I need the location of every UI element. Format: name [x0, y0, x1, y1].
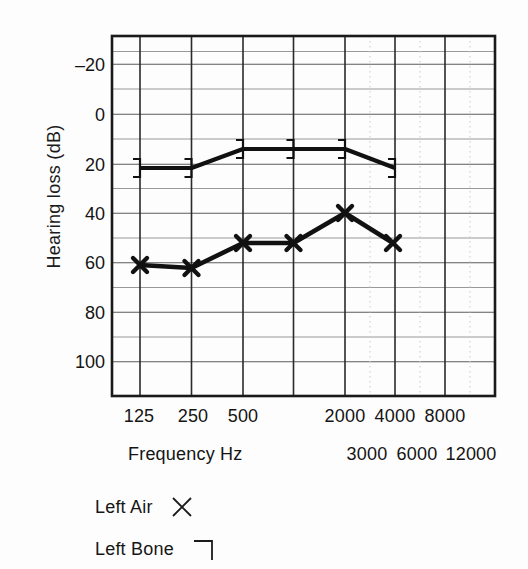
y-tick-label: 20 [85, 155, 105, 175]
audiogram-figure: Hearing loss (dB) [0, 0, 528, 569]
audiogram-plot: –20 0 20 40 60 80 100 [0, 0, 528, 420]
legend-item-left-air: Left Air [95, 492, 195, 522]
plot-frame [112, 36, 495, 396]
x-tick-label-8000: 8000 [425, 406, 466, 427]
x-tick-label-6000: 6000 [397, 444, 438, 465]
x-tick-row-secondary: 3000 6000 12000 [0, 444, 528, 470]
y-tick-label: 100 [75, 352, 105, 372]
x-tick-label-12000: 12000 [445, 444, 496, 465]
x-axis-title: Frequency Hz [128, 444, 242, 465]
left-bone-markers [133, 140, 395, 177]
cross-x-symbol-icon [169, 494, 195, 520]
y-tick-label: 0 [95, 105, 105, 125]
y-tick-label: –20 [75, 55, 105, 75]
y-tick-labels: –20 0 20 40 60 80 100 [75, 55, 105, 373]
x-tick-label-250: 250 [178, 406, 209, 427]
legend-label-left-air: Left Air [95, 497, 153, 518]
series-left-air [133, 206, 400, 275]
series-left-bone [133, 140, 395, 177]
horizontal-major-gridlines [112, 64, 495, 361]
x-tick-label-500: 500 [228, 406, 259, 427]
grid-layer [112, 36, 495, 396]
x-tick-label-4000: 4000 [375, 406, 416, 427]
x-tick-label-3000: 3000 [347, 444, 388, 465]
vertical-dotted-gridlines [370, 36, 470, 396]
y-tick-label: 40 [85, 204, 105, 224]
legend-item-left-bone: Left Bone [95, 534, 216, 564]
y-tick-label: 80 [85, 303, 105, 323]
left-bone-line [140, 149, 395, 168]
x-tick-row-primary: 125 250 500 2000 4000 8000 [0, 406, 528, 432]
legend-label-left-bone: Left Bone [95, 539, 174, 560]
vertical-gridlines [140, 36, 445, 396]
horizontal-minor-gridlines [112, 52, 495, 338]
left-bone-bracket-symbol-icon [190, 536, 216, 562]
x-tick-label-125: 125 [124, 406, 155, 427]
left-air-line [140, 213, 393, 268]
x-tick-label-2000: 2000 [325, 406, 366, 427]
y-tick-label: 60 [85, 253, 105, 273]
